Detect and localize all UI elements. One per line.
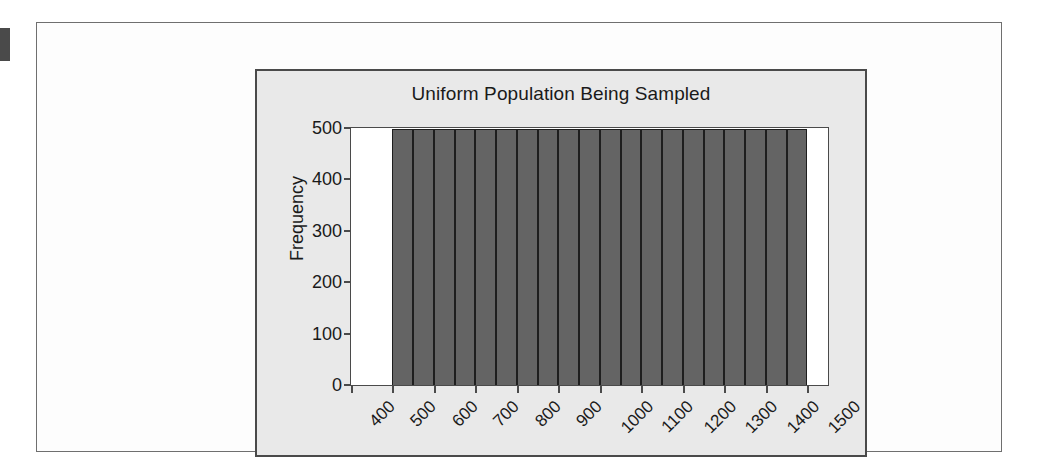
- histogram-bar: [496, 129, 517, 385]
- histogram-bar: [517, 129, 538, 385]
- y-tick-label: 500: [312, 118, 351, 139]
- histogram-bar: [538, 129, 559, 385]
- x-tick-label: 1300: [741, 397, 782, 438]
- chart-frame: Uniform Population Being Sampled Frequen…: [255, 69, 867, 457]
- x-tick-label: 700: [490, 397, 524, 431]
- x-tick-label: 800: [531, 397, 565, 431]
- x-tick-label: 1400: [783, 397, 824, 438]
- histogram-bar: [434, 129, 455, 385]
- x-tick-mark: [641, 385, 643, 393]
- y-tick-label: 400: [312, 169, 351, 190]
- histogram-bar: [475, 129, 496, 385]
- histogram-bar: [704, 129, 725, 385]
- x-tick-mark: [434, 385, 436, 393]
- x-tick-mark: [517, 385, 519, 393]
- y-tick-label: 200: [312, 272, 351, 293]
- histogram-bar: [392, 129, 413, 385]
- x-tick-label: 1100: [658, 397, 698, 437]
- x-tick-mark: [392, 385, 394, 393]
- x-tick-label: 600: [448, 397, 482, 431]
- histogram-bar: [662, 129, 683, 385]
- y-tick-label: 300: [312, 220, 351, 241]
- x-tick-mark: [558, 385, 560, 393]
- histogram-bar: [787, 129, 808, 385]
- x-tick-mark: [600, 385, 602, 393]
- x-tick-label: 500: [407, 397, 441, 431]
- x-tick-mark: [351, 385, 353, 393]
- slide-panel: Uniform Population Being Sampled Frequen…: [36, 22, 1002, 452]
- x-tick-mark: [766, 385, 768, 393]
- bars-layer: [351, 128, 828, 385]
- x-tick-label: 1500: [824, 397, 865, 438]
- x-tick-label: 1200: [700, 397, 741, 438]
- x-tick-label: 400: [365, 397, 399, 431]
- chart-title: Uniform Population Being Sampled: [257, 83, 865, 105]
- x-tick-mark: [724, 385, 726, 393]
- histogram-bar: [558, 129, 579, 385]
- left-edge-marker: [0, 28, 10, 61]
- x-tick-label: 1000: [617, 397, 658, 438]
- x-tick-mark: [807, 385, 809, 393]
- histogram-bar: [621, 129, 642, 385]
- x-tick-mark: [475, 385, 477, 393]
- histogram-bar: [683, 129, 704, 385]
- y-tick-label: 0: [332, 375, 351, 396]
- histogram-bar: [641, 129, 662, 385]
- histogram-bar: [766, 129, 787, 385]
- x-tick-label: 900: [573, 397, 607, 431]
- x-tick-mark: [683, 385, 685, 393]
- y-axis-title: Frequency: [287, 176, 308, 261]
- histogram-bar: [724, 129, 745, 385]
- histogram-bar: [579, 129, 600, 385]
- screenshot-root: Uniform Population Being Sampled Frequen…: [0, 0, 1038, 476]
- histogram-bar: [745, 129, 766, 385]
- histogram-bar: [600, 129, 621, 385]
- histogram-bar: [413, 129, 434, 385]
- y-tick-label: 100: [312, 323, 351, 344]
- plot-area: 0100200300400500 40050060070080090010001…: [350, 127, 829, 386]
- histogram-bar: [455, 129, 476, 385]
